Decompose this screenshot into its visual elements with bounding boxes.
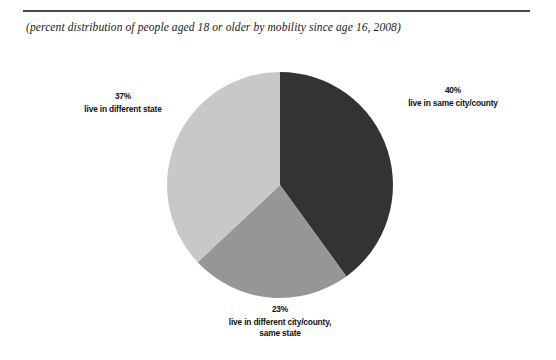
pie-label-description: live in same city/county — [387, 97, 519, 109]
pie-chart-svg — [167, 72, 393, 298]
pie-label-description: live in different state — [57, 103, 189, 115]
pie-label-description-line2: same state — [196, 327, 363, 339]
pie-label-different-city-same-state: 23% live in different city/county, same … — [196, 303, 363, 339]
pie-label-percent: 23% — [196, 303, 363, 315]
pie-label-same-city-county: 40% live in same city/county — [387, 84, 519, 108]
pie-label-percent: 40% — [387, 84, 519, 96]
chart-subtitle: (percent distribution of people aged 18 … — [26, 20, 526, 34]
pie-chart-figure: (percent distribution of people aged 18 … — [0, 0, 556, 360]
pie-label-different-state: 37% live in different state — [57, 90, 189, 114]
header-divider — [23, 10, 530, 12]
pie-label-description-line1: live in different city/county, — [196, 316, 363, 328]
pie-label-percent: 37% — [57, 90, 189, 102]
pie-chart — [167, 72, 393, 298]
